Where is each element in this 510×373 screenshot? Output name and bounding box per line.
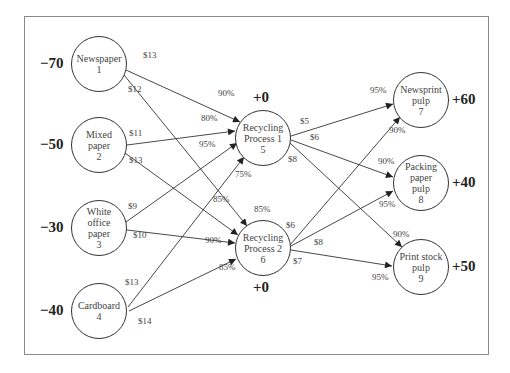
node-number: 2 — [97, 151, 102, 162]
net-flow-node-3: −30 — [40, 219, 64, 236]
arc-6-8 — [291, 191, 393, 246]
node-label: Newspaper — [77, 53, 122, 64]
cost-5-7: $5 — [300, 116, 309, 126]
node-label: paper — [88, 228, 110, 239]
arc-6-9 — [291, 250, 392, 266]
net-flow-node-8: +40 — [452, 174, 476, 191]
yield-3-5: 95% — [199, 139, 216, 149]
node-recycling-process-1: Recycling Process 1 5 — [235, 110, 291, 166]
yield-4-5: 75% — [235, 169, 252, 179]
node-label: Packing — [405, 161, 437, 172]
yield-4-6: 85% — [219, 262, 236, 272]
node-packing-paper-pulp: Packing paper pulp 8 — [393, 155, 449, 211]
yield-5-9: 90% — [393, 229, 410, 239]
node-label: Cardboard — [78, 300, 120, 311]
net-flow-node-5: +0 — [253, 89, 269, 106]
yield-6-7: 90% — [389, 125, 406, 135]
node-print-stock-pulp: Print stock pulp 9 — [393, 239, 449, 295]
arc-2-5 — [127, 131, 235, 145]
yield-6-8: 95% — [379, 199, 396, 209]
network-diagram: Newspaper 1 Mixed paper 2 White office p… — [0, 0, 510, 373]
yield-6-9: 95% — [372, 272, 389, 282]
node-number: 5 — [261, 144, 266, 155]
node-label: Newsprint — [400, 84, 442, 95]
node-label: pulp — [412, 183, 430, 194]
cost-6-8: $8 — [314, 237, 323, 247]
cost-6-7: $6 — [286, 220, 295, 230]
yield-3-6: 90% — [205, 235, 222, 245]
node-number: 6 — [261, 254, 266, 265]
node-label: Mixed — [86, 129, 112, 140]
node-number: 7 — [419, 106, 424, 117]
node-mixed-paper: Mixed paper 2 — [71, 117, 127, 173]
node-number: 9 — [419, 273, 424, 284]
yield-2-6: 85% — [254, 204, 271, 214]
node-label: Process 2 — [244, 243, 282, 254]
node-number: 1 — [97, 64, 102, 75]
net-flow-node-2: −50 — [40, 136, 64, 153]
cost-4-6: $14 — [138, 316, 152, 326]
node-label: Process 1 — [244, 133, 282, 144]
node-label: paper — [88, 140, 110, 151]
node-number: 4 — [97, 311, 102, 322]
cost-1-6: $12 — [128, 84, 142, 94]
node-label: pulp — [412, 262, 430, 273]
cost-5-8: $6 — [310, 132, 319, 142]
net-flow-node-7: +60 — [452, 91, 476, 108]
yield-1-6: 85% — [213, 194, 230, 204]
node-label: Recycling — [243, 122, 284, 133]
yield-1-5: 90% — [218, 88, 235, 98]
cost-5-9: $8 — [288, 154, 297, 164]
node-cardboard: Cardboard 4 — [71, 283, 127, 339]
node-recycling-process-2: Recycling Process 2 6 — [235, 220, 291, 276]
cost-2-5: $11 — [129, 128, 142, 138]
node-label: pulp — [412, 95, 430, 106]
yield-2-5: 80% — [201, 113, 218, 123]
yield-5-7: 95% — [370, 85, 387, 95]
node-label: Recycling — [243, 232, 284, 243]
node-white-office-paper: White office paper 3 — [71, 200, 127, 256]
node-label: Print stock — [399, 251, 442, 262]
node-number: 3 — [97, 239, 102, 250]
node-label: office — [87, 217, 110, 228]
cost-1-5: $13 — [143, 50, 157, 60]
cost-6-9: $7 — [293, 256, 302, 266]
node-number: 8 — [419, 194, 424, 205]
cost-2-6: $13 — [129, 155, 143, 165]
cost-4-5: $13 — [125, 277, 139, 287]
arc-6-7 — [290, 117, 400, 245]
cost-3-5: $9 — [128, 201, 137, 211]
node-label: paper — [410, 172, 432, 183]
net-flow-node-1: −70 — [40, 55, 64, 72]
cost-3-6: $10 — [133, 230, 147, 240]
node-newsprint-pulp: Newsprint pulp 7 — [393, 72, 449, 128]
net-flow-node-6: +0 — [253, 279, 269, 296]
net-flow-node-4: −40 — [40, 302, 64, 319]
node-newspaper: Newspaper 1 — [71, 36, 127, 92]
yield-5-8: 90% — [378, 156, 395, 166]
net-flow-node-9: +50 — [452, 258, 476, 275]
node-label: White — [87, 206, 111, 217]
